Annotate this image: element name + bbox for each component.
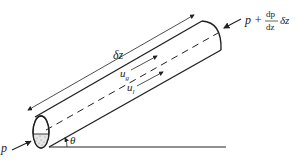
- inlet-pressure-label: p: [0, 141, 7, 155]
- length-label: δz: [113, 48, 124, 62]
- outlet-fraction-denominator: dz: [266, 22, 275, 32]
- outlet-pressure-arrow: [224, 19, 241, 28]
- angle-arc: [65, 138, 67, 147]
- outlet-fraction-numerator: dp: [266, 9, 276, 19]
- gas-velocity-label: ug: [120, 67, 130, 82]
- length-dimension-line: [28, 15, 194, 110]
- inclined-pipe-diagram: p p + dp dz δz δz ug ul θ: [0, 0, 298, 161]
- liquid-velocity-label: ul: [127, 81, 135, 96]
- outlet-pressure-label: p +: [244, 13, 262, 27]
- inlet-pressure-arrow: [12, 141, 31, 150]
- angle-label: θ: [70, 134, 76, 146]
- pipe-body: [30, 21, 221, 150]
- pipe-right-end: [202, 21, 221, 50]
- liquid-velocity-arrow: [137, 72, 163, 86]
- outlet-delta-z: δz: [280, 14, 290, 26]
- gas-velocity-arrow: [131, 56, 157, 70]
